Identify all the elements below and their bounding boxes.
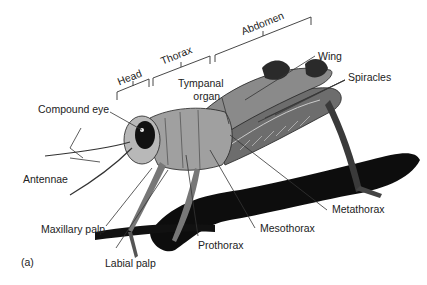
label-mesothorax: Mesothorax <box>260 223 315 234</box>
label-tympanal-line1: Tympanal <box>178 78 224 89</box>
label-spiracles: Spiracles <box>348 72 391 83</box>
label-metathorax: Metathorax <box>332 204 385 215</box>
label-compound-eye: Compound eye <box>38 104 109 115</box>
thorax <box>149 108 232 170</box>
label-wing: Wing <box>318 51 342 62</box>
compound-eye <box>135 121 155 149</box>
label-maxillary-palp: Maxillary palp <box>41 224 105 235</box>
label-prothorax: Prothorax <box>198 240 244 251</box>
panel-label: (a) <box>21 257 34 268</box>
label-tympanal-line2: organ <box>178 91 224 102</box>
label-labial-palp: Labial palp <box>105 258 156 269</box>
label-tympanal-organ: Tympanal organ <box>178 78 224 101</box>
label-antennae: Antennae <box>23 174 68 185</box>
antenna-upper <box>45 142 130 156</box>
